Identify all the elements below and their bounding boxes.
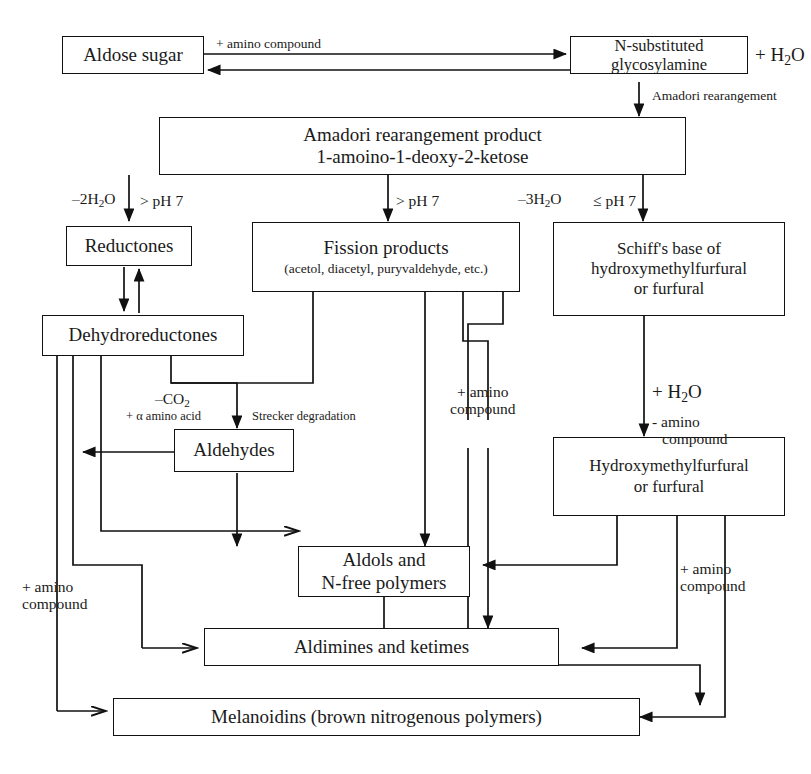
edge-label-strecker-degradation: Strecker degradation	[252, 409, 356, 423]
node-hydroxymethylfurfural-line1: Hydroxymethylfurfural	[589, 456, 749, 475]
edge-label-amino-compound-top: + amino compound	[216, 36, 321, 51]
node-dehydroreductones-label: Dehydroreductones	[43, 323, 243, 347]
edge-label-amino-compound-center: + aminocompound	[450, 383, 515, 417]
node-schiffs-base-line2: hydroxymethylfurfural	[591, 259, 747, 278]
node-n-substituted-glycosylamine[interactable]: N-substituted glycosylamine	[570, 36, 748, 74]
node-aldols-n-free-polymers[interactable]: Aldols and N-free polymers	[298, 546, 470, 597]
node-amadori-product[interactable]: Amadori rearangement product 1-amoino-1-…	[159, 117, 686, 175]
edge-label-ph-gt7-mid: > pH 7	[396, 192, 439, 209]
edge-label-amadori-rearangement: Amadori rearangement	[652, 88, 777, 103]
node-hydroxymethylfurfural-line2: or furfural	[634, 477, 704, 496]
node-aldols-line1: Aldols and	[343, 549, 426, 570]
node-aldols-line2: N-free polymers	[321, 572, 446, 593]
node-melanoidins-label: Melanoidins (brown nitrogenous polymers)	[114, 705, 639, 729]
node-n-substituted-glycosylamine-label: N-substituted glycosylamine	[571, 35, 747, 76]
node-schiffs-base-line1: Schiff's base of	[617, 239, 721, 258]
edge-label-minus-amino-compound: - aminocompound	[652, 413, 727, 447]
node-fission-products-line1: Fission products	[323, 237, 448, 258]
node-hydroxymethylfurfural[interactable]: Hydroxymethylfurfural or furfural	[553, 437, 785, 516]
node-aldimines-ketimes-label: Aldimines and ketimes	[205, 635, 558, 659]
node-aldehydes-label: Aldehydes	[175, 438, 293, 462]
node-reductones-label: Reductones	[67, 234, 191, 258]
edge-label-plus-alpha-amino-acid: + α amino acid	[126, 409, 201, 423]
edge-label-minus-3h2o: –3H2O	[518, 190, 561, 209]
node-amadori-product-line2: 1-amoino-1-deoxy-2-ketose	[316, 146, 528, 167]
node-aldehydes[interactable]: Aldehydes	[174, 429, 294, 472]
node-melanoidins[interactable]: Melanoidins (brown nitrogenous polymers)	[113, 698, 640, 736]
node-amadori-product-line1: Amadori rearangement product	[303, 124, 541, 145]
maillard-reaction-diagram: Aldose sugar N-substituted glycosylamine…	[0, 0, 811, 774]
node-dehydroreductones[interactable]: Dehydroreductones	[42, 315, 244, 356]
node-aldimines-ketimes[interactable]: Aldimines and ketimes	[204, 628, 559, 666]
node-fission-products[interactable]: Fission products (acetol, diacetyl, pury…	[252, 222, 520, 292]
edge-label-minus-co2: –CO2	[155, 390, 190, 409]
edge-label-water-top-right: + H2O	[755, 44, 805, 68]
node-fission-products-line2: (acetol, diacetyl, puryvaldehyde, etc.)	[259, 261, 513, 277]
edge-label-amino-compound-right: + aminocompound	[680, 560, 745, 594]
edge-label-ph-le7-right: ≤ pH 7	[593, 192, 636, 209]
node-reductones[interactable]: Reductones	[66, 226, 192, 266]
edge-label-ph-gt7-left: > pH 7	[140, 192, 183, 209]
node-aldose-sugar[interactable]: Aldose sugar	[62, 36, 204, 74]
edge-label-plus-h2o-right: + H2O	[652, 381, 702, 405]
node-schiffs-base[interactable]: Schiff's base of hydroxymethylfurfural o…	[553, 222, 785, 316]
edge-label-amino-compound-left: + aminocompound	[22, 578, 87, 612]
node-schiffs-base-line3: or furfural	[634, 279, 704, 298]
edge-label-minus-2h2o: –2H2O	[72, 190, 115, 209]
node-aldose-sugar-label: Aldose sugar	[63, 43, 203, 67]
